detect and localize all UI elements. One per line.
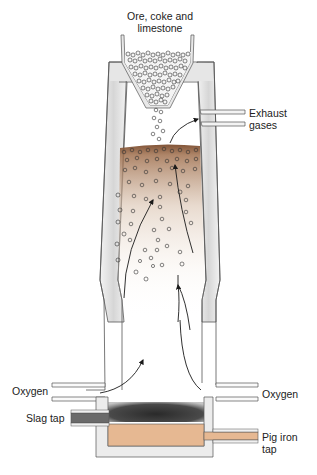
furnace-drawing: [0, 0, 317, 475]
label-oxygen-left: Oxygen: [12, 385, 48, 397]
label-input-line2: limestone: [118, 22, 202, 34]
label-pig-iron-line2: tap: [262, 443, 298, 455]
label-pig-iron-tap: Pig iron tap: [262, 431, 298, 455]
label-slag-tap: Slag tap: [26, 412, 65, 424]
label-exhaust: Exhaust gases: [249, 107, 287, 131]
label-input: Ore, coke and limestone: [118, 10, 202, 34]
label-oxygen-right: Oxygen: [262, 388, 298, 400]
label-pig-iron-line1: Pig iron: [262, 431, 298, 443]
pig-iron-layer: [108, 424, 204, 446]
oxygen-pipe-right: [216, 383, 258, 401]
slag-tap-pipe: [71, 410, 109, 426]
slag-layer: [108, 402, 204, 422]
blast-furnace-diagram: Ore, coke and limestone Exhaust gases Ox…: [0, 0, 317, 475]
label-exhaust-line1: Exhaust: [249, 107, 287, 119]
label-exhaust-line2: gases: [249, 119, 287, 131]
label-input-line1: Ore, coke and: [118, 10, 202, 22]
